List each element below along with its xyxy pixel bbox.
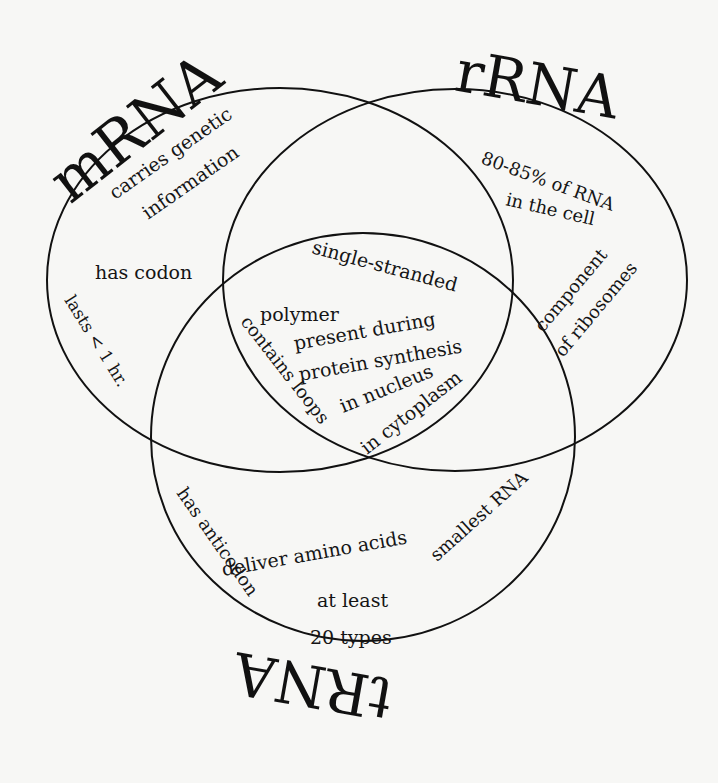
trna-fact-3: has anticodon [173, 483, 264, 600]
rrna-title: rRNA [451, 37, 625, 133]
mrna-fact-3: lasts < 1 hr. [61, 292, 133, 391]
venn-diagram: mRNA rRNA tRNA carries genetic informati… [0, 0, 718, 783]
mrna-fact-2: has codon [95, 261, 192, 283]
trna-fact-4: smallest RNA [426, 466, 533, 565]
shared-fact-1: single-stranded [310, 236, 460, 296]
trna-fact-2b: 20 types [310, 626, 392, 648]
trna-title: tRNA [227, 638, 397, 733]
trna-fact-2: at least [317, 589, 388, 611]
shared-fact-2: polymer [260, 303, 340, 325]
